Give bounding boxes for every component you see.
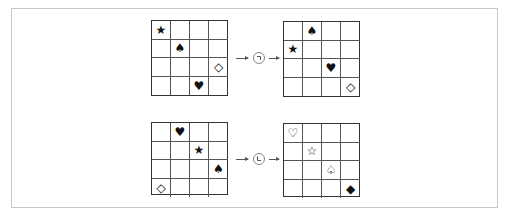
operator-row-1 [253,52,265,64]
grid-cell [322,22,341,41]
grid-cell [284,180,303,199]
grid-cell: ♥ [171,123,190,142]
arrow-to-operator-row-1 [236,58,248,59]
grid-cell [322,143,341,162]
grid-cell [341,41,360,60]
grid-cell [284,59,303,78]
grid-cell [322,180,341,199]
star-filled-icon: ★ [194,144,205,156]
corner-bottom-left-icon [254,154,264,164]
grid-cell: ★ [152,21,171,40]
puzzle-frame [11,8,498,208]
grid-cell [209,123,228,142]
grid-cell [284,143,303,162]
grid-cell [303,161,322,180]
grid-cell [171,160,190,179]
grid-cell [341,59,360,78]
grid-cell [322,78,341,97]
grid-cell: ♥ [322,59,341,78]
grid-cell [322,124,341,143]
arrow-to-output-row-2 [269,159,279,160]
operator-row-2 [253,153,265,165]
grid-cell [303,180,322,199]
grid-cell [190,21,209,40]
spade-filled-icon: ♠ [213,163,224,175]
star-outline-icon: ☆ [307,145,318,157]
grid-cell: ☆ [303,143,322,162]
grid-cell: ◇ [209,58,228,77]
grid-cell: ♠ [209,160,228,179]
grid-cell: ★ [284,41,303,60]
grid-cell [209,21,228,40]
grid-cell [152,160,171,179]
grid-cell: ♠ [303,22,322,41]
heart-outline-icon: ♡ [288,127,299,139]
grid-cell [303,78,322,97]
heart-filled-icon: ♥ [194,80,205,92]
grid-cell [190,160,209,179]
grid-cell [322,41,341,60]
grid-cell [171,142,190,161]
grid-cell [190,40,209,59]
spade-filled-icon: ♠ [175,42,186,54]
star-filled-icon: ★ [156,24,167,36]
grid-cell [190,58,209,77]
grid-cell: ◇ [341,78,360,97]
grid-cell [152,123,171,142]
input-grid-row-1: ★♠◇♥ [151,20,228,96]
diamond-outline-icon: ◇ [156,182,165,194]
grid-cell [303,41,322,60]
heart-filled-icon: ♥ [326,62,337,74]
grid-cell: ♠ [171,40,190,59]
grid-cell [284,161,303,180]
diamond-outline-icon: ◇ [346,81,355,93]
grid-cell [152,58,171,77]
arrow-to-output-row-1 [269,58,279,59]
spade-outline-icon: ♤ [326,164,337,176]
spade-filled-icon: ♠ [307,25,318,37]
grid-cell [341,161,360,180]
grid-cell [152,40,171,59]
grid-cell [303,59,322,78]
grid-cell: ◇ [152,179,171,198]
grid-cell [190,179,209,198]
grid-cell [303,124,322,143]
grid-cell [209,179,228,198]
diamond-filled-icon: ◆ [346,183,355,195]
grid-cell [190,123,209,142]
grid-cell: ♡ [284,124,303,143]
grid-cell [341,143,360,162]
grid-cell [171,58,190,77]
grid-cell [341,124,360,143]
corner-top-right-icon [254,53,264,63]
grid-cell [209,142,228,161]
grid-cell [152,77,171,96]
grid-cell: ★ [190,142,209,161]
star-filled-icon: ★ [288,43,299,55]
grid-cell [171,179,190,198]
output-grid-row-2: ♡☆♤◆ [283,123,360,197]
grid-cell [171,21,190,40]
grid-cell [209,77,228,96]
grid-cell [284,22,303,41]
input-grid-row-2: ♥★♠◇ [151,122,228,195]
arrow-to-operator-row-2 [236,159,248,160]
output-grid-row-1: ♠★♥◇ [283,21,360,97]
grid-cell [341,22,360,41]
heart-filled-icon: ♥ [175,126,186,138]
grid-cell: ◆ [341,180,360,199]
grid-cell: ♤ [322,161,341,180]
grid-cell [152,142,171,161]
grid-cell [171,77,190,96]
diamond-outline-icon: ◇ [214,61,223,73]
grid-cell [284,78,303,97]
grid-cell: ♥ [190,77,209,96]
grid-cell [209,40,228,59]
